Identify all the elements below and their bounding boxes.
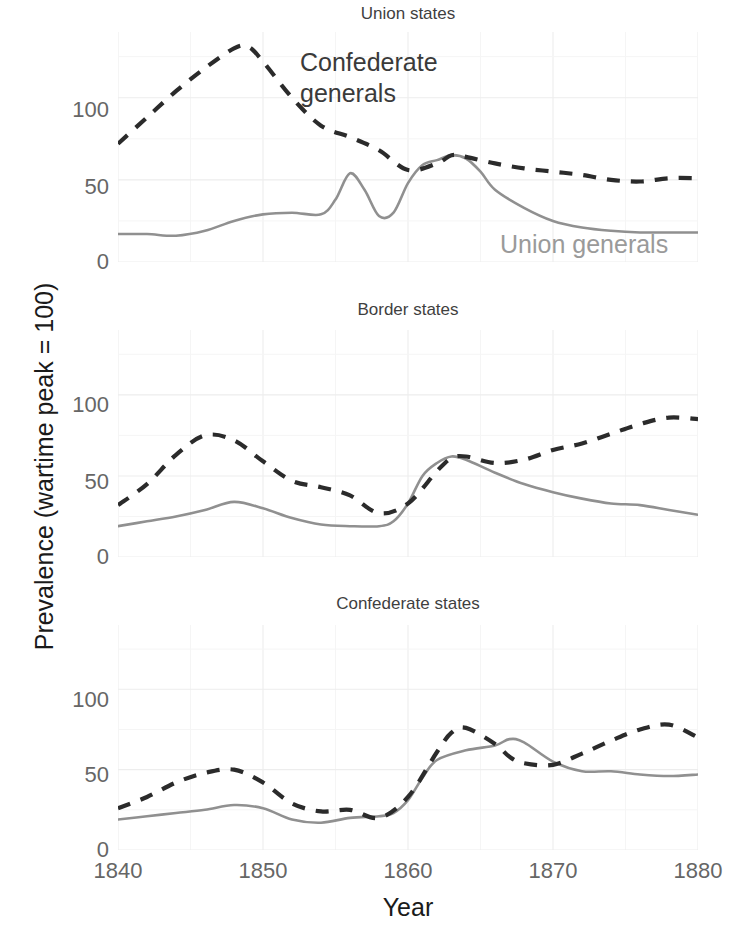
y-tick-label: 50 bbox=[85, 762, 109, 788]
annotation-union-generals: Union generals bbox=[500, 229, 668, 260]
x-tick-label: 1850 bbox=[239, 858, 288, 884]
y-tick-label: 0 bbox=[97, 544, 109, 570]
x-tick-label: 1840 bbox=[94, 858, 143, 884]
annotation-line-1: Confederate bbox=[300, 47, 438, 78]
x-tick-label: 1870 bbox=[529, 858, 578, 884]
panel-border-states: Border states 100 50 0 bbox=[0, 290, 739, 585]
x-tick-label: 1860 bbox=[384, 858, 433, 884]
panel-title: Union states bbox=[118, 4, 698, 24]
plot-svg bbox=[118, 625, 698, 850]
y-tick-label: 0 bbox=[97, 249, 109, 275]
x-tick-label: 1880 bbox=[674, 858, 723, 884]
y-tick-label: 100 bbox=[72, 687, 109, 713]
panel-union-states: Union states 100 50 0 Confederate genera… bbox=[0, 0, 739, 290]
annotation-confederate-generals: Confederate generals bbox=[300, 47, 438, 108]
y-tick-label: 100 bbox=[72, 97, 109, 123]
plot-area: 100 50 0 1840 1850 1860 1870 1880 bbox=[118, 625, 698, 850]
annotation-line-2: generals bbox=[300, 78, 438, 109]
plot-svg bbox=[118, 330, 698, 557]
plot-area: 100 50 0 bbox=[118, 330, 698, 557]
y-tick-label: 100 bbox=[72, 392, 109, 418]
x-axis-title: Year bbox=[118, 893, 698, 922]
y-tick-label: 50 bbox=[85, 469, 109, 495]
y-tick-label: 50 bbox=[85, 174, 109, 200]
panel-title: Confederate states bbox=[118, 594, 698, 614]
chart-figure: Prevalence (wartime peak = 100) Year Uni… bbox=[0, 0, 739, 931]
panel-confederate-states: Confederate states 100 50 0 1840 1850 18… bbox=[0, 585, 739, 885]
panel-title: Border states bbox=[118, 300, 698, 320]
